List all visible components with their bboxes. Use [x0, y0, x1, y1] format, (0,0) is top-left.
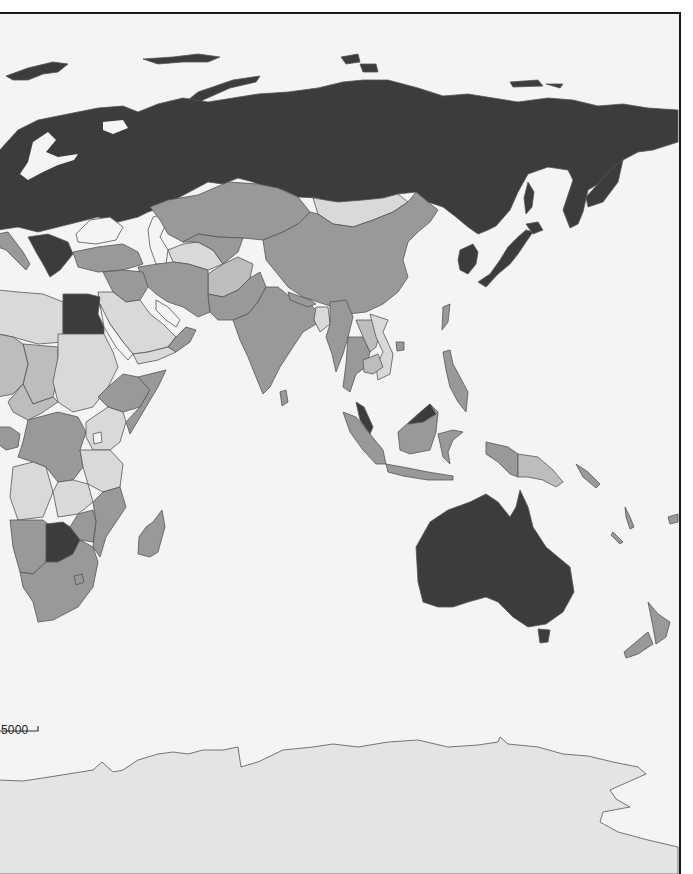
papua-new-guinea [518, 454, 563, 487]
fiji [668, 514, 678, 524]
madagascar [138, 510, 165, 557]
new-caledonia [611, 532, 623, 544]
vanuatu [625, 507, 634, 529]
taiwan [442, 304, 450, 330]
antarctica [0, 737, 678, 874]
java [386, 464, 453, 480]
choropleth-map [0, 14, 679, 874]
kenya-uganda [86, 407, 126, 450]
tasmania [538, 629, 550, 643]
iran [138, 262, 210, 317]
korea [458, 244, 478, 274]
new-siberian-islands [510, 80, 563, 88]
hainan [396, 342, 404, 351]
new-zealand-north [648, 602, 670, 644]
sakhalin [524, 182, 534, 214]
bangladesh [314, 307, 330, 332]
australia [416, 490, 574, 627]
mozambique [93, 487, 126, 557]
philippines [443, 350, 468, 412]
angola [10, 462, 53, 520]
solomon-islands [576, 464, 600, 488]
svalbard [6, 62, 68, 80]
franz-josef-land [143, 54, 220, 64]
new-zealand-south [624, 632, 653, 658]
japan [478, 230, 533, 287]
map-frame: 5000 [0, 12, 681, 874]
gabon [0, 427, 20, 450]
sri-lanka [280, 390, 288, 406]
scale-bar-label: 5000 [1, 723, 29, 737]
new-guinea-west [486, 442, 518, 477]
sulawesi [438, 430, 463, 464]
severnaya-zemlya [341, 54, 378, 72]
egypt [63, 294, 104, 334]
lake-victoria [93, 432, 102, 444]
turkey [73, 244, 143, 272]
